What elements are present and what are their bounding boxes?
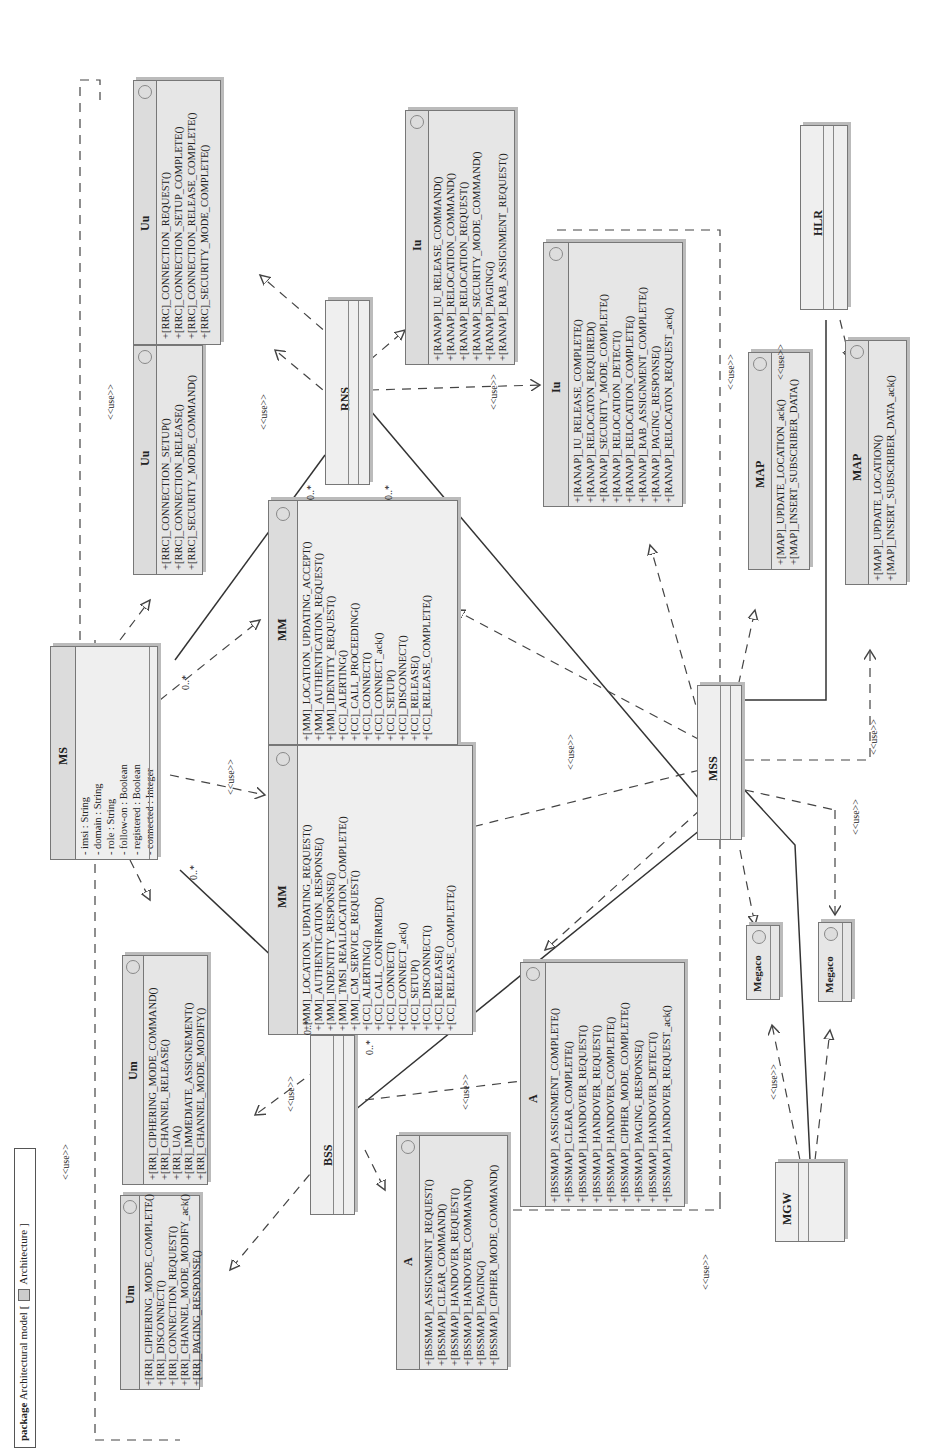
multiplicity-label: 0..* [383, 485, 394, 500]
use-label: <<use>> [725, 354, 736, 390]
use-label: <<use>> [565, 734, 576, 770]
interface-icon [824, 927, 838, 941]
interface-icon [276, 507, 290, 521]
interface-a-1[interactable]: A +[BSSMAP]_ASSIGNMENT_REQUEST() +[BSSMA… [396, 1135, 508, 1370]
interface-icon [276, 752, 290, 766]
interface-icon [123, 1200, 137, 1214]
interface-iu-2[interactable]: Iu +[RANAP]_IU_RELEASE_COMPLETE() +[RANA… [543, 242, 683, 507]
node-rns[interactable]: RNS [325, 300, 370, 485]
interface-um-1[interactable]: Um +[RR]_CIPHERING_MODE_COMPLETE() +[RR]… [120, 1195, 200, 1390]
interface-map-2[interactable]: MAP +[MAP]_UPDATE_LOCATION() +[MAP]_INSE… [845, 340, 907, 585]
use-label: <<use>> [768, 1064, 779, 1100]
interface-icon [126, 960, 140, 974]
use-label: <<use>> [850, 799, 861, 835]
multiplicity-label: 0..* [180, 675, 191, 690]
interface-icon [526, 967, 540, 981]
interface-iu-1[interactable]: Iu +[RANAP]_IU_RELEASE_COMMAND() +[RANAP… [405, 110, 515, 365]
multiplicity-label: 0..* [305, 485, 316, 500]
class-name: MS [56, 747, 71, 765]
interface-megaco-2[interactable]: Megaco [818, 922, 852, 1002]
use-label: <<use>> [488, 374, 499, 410]
node-mss[interactable]: MSS [697, 685, 742, 840]
use-label: <<use>> [460, 1074, 471, 1110]
interface-icon [752, 930, 766, 944]
interface-icon [410, 115, 424, 129]
interface-icon [138, 85, 152, 99]
package-frame: package Architectural model [ Architectu… [14, 1148, 36, 1448]
multiplicity-label: 0..* [188, 865, 199, 880]
multiplicity-label: 0..* [364, 1040, 375, 1055]
interface-icon [549, 247, 563, 261]
use-label: <<use>> [60, 1144, 71, 1180]
use-label: <<use>> [105, 384, 116, 420]
use-label: <<use>> [285, 1076, 296, 1112]
use-label: <<use>> [700, 1254, 711, 1290]
interface-map-1[interactable]: MAP +[MAP]_UPDATE_LOCATION_ack() +[MAP]_… [748, 352, 810, 570]
interface-mm-1[interactable]: MM +[MM]_LOCATION_UPDATING_REQUEST() +[M… [268, 745, 473, 1035]
use-label: <<use>> [225, 759, 236, 795]
interface-icon [138, 350, 152, 364]
interface-mm-2[interactable]: MM +[MM]_LOCATION_UPDATING_ACCEPT() +[MM… [268, 500, 458, 745]
multiplicity-label: 0..* [302, 1020, 313, 1035]
node-hlr[interactable]: HLR [800, 125, 848, 310]
interface-a-2[interactable]: A +[BSSMAP]_ASSIGNMENT_COMPLETE() +[BSSM… [520, 962, 685, 1207]
use-label: <<use>> [775, 344, 786, 380]
interface-uu-2[interactable]: Uu +[RRC]_CONNECTION_REQUEST() +[RRC]_CO… [133, 80, 221, 345]
interface-um-2[interactable]: Um +[RR]_CIPHERING_MODE_COMMAND() +[RR]_… [122, 955, 208, 1185]
package-diagram-icon [18, 1289, 30, 1301]
node-bss[interactable]: BSS [310, 1035, 355, 1215]
interface-uu-1[interactable]: Uu +[RRC]_CONNECTION_SETUP() +[RRC]_CONN… [133, 345, 203, 575]
interface-icon [850, 345, 864, 359]
use-label: <<use>> [868, 719, 879, 755]
class-ms[interactable]: MS - imsi : String - domain : String - r… [50, 646, 158, 860]
node-mgw[interactable]: MGW [775, 1162, 845, 1242]
use-label: <<use>> [258, 394, 269, 430]
interface-icon [753, 357, 767, 371]
interface-icon [401, 1140, 415, 1154]
package-title: package Architectural model [ Architectu… [17, 1223, 30, 1441]
interface-megaco-1[interactable]: Megaco [746, 925, 780, 1000]
